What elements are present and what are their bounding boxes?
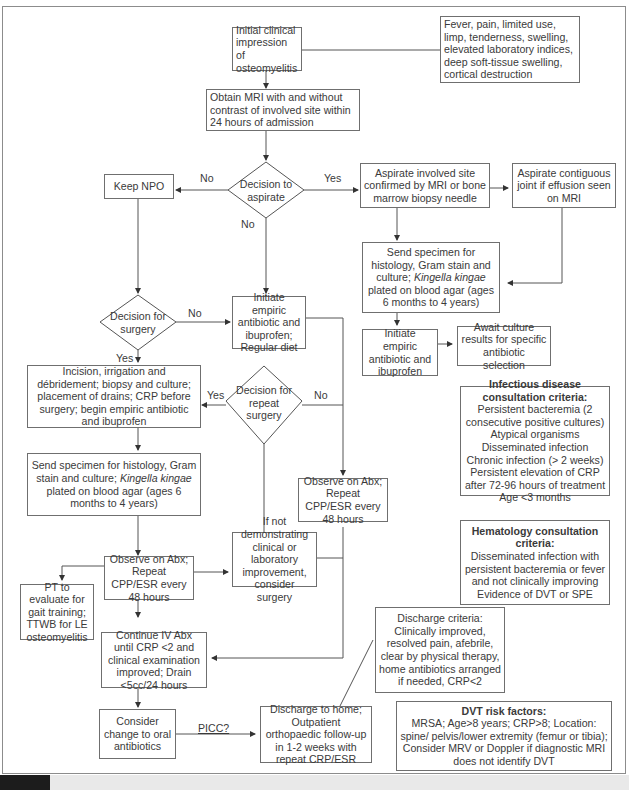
aspirate-site-box: Aspirate involved site confirmed by MRI … — [360, 163, 490, 208]
consider-oral-box: Consider change to oral antibiotics — [99, 709, 176, 759]
bottom-tab — [0, 775, 50, 790]
send-specimen-left-text: Send specimen for histology, Gram stain … — [31, 459, 197, 509]
edge-label-no-surgery: No — [188, 307, 202, 319]
initial-impression-box: Initial clinical impression of osteomyel… — [232, 27, 302, 71]
obtain-mri-text: Obtain MRI with and without contrast of … — [210, 91, 356, 129]
hematology-criteria-box: Hematology consultation criteria: Dissem… — [460, 520, 610, 605]
discharge-home-box: Discharge to home; Outpatient orthopaedi… — [260, 706, 372, 763]
edge-label-yes-aspirate: Yes — [324, 172, 341, 184]
edge-label-yes-repeat: Yes — [207, 389, 224, 401]
observe-abx-left-box: Observe on Abx; Repeat CPP/ESR every 48 … — [104, 556, 194, 600]
discharge-criteria-box: Discharge criteria: Clinically improved,… — [375, 607, 505, 693]
incision-box: Incision, irrigation and débridement; bi… — [27, 365, 201, 428]
aspirate-joint-box: Aspirate contiguous joint if effusion se… — [512, 163, 616, 208]
not-demonstrating-box: If not demonstrating clinical or laborat… — [232, 532, 317, 587]
symptoms-box: Fever, pain, limited use, limp, tenderne… — [440, 16, 580, 83]
edge-label-no-aspirate-down: No — [241, 218, 255, 230]
edge-label-no-repeat: No — [314, 389, 328, 401]
await-culture-box: Await culture results for specific antib… — [457, 326, 551, 366]
decision-for-repeat-surgery: Decision for repeat surgery — [234, 384, 294, 422]
send-specimen-right-box: Send specimen for histology, Gram stain … — [362, 242, 500, 313]
edge-label-yes-surgery: Yes — [116, 352, 133, 364]
edge-label-picc: PICC? — [198, 722, 229, 734]
initiate-empiric-right-box: Initiate empiric antibiotic and ibuprofe… — [362, 329, 438, 376]
symptoms-text: Fever, pain, limited use, limp, tenderne… — [444, 18, 576, 81]
decision-to-aspirate: Decision to aspirate — [236, 178, 296, 203]
send-specimen-right-text: Send specimen for histology, Gram stain … — [366, 246, 496, 309]
keep-npo-box: Keep NPO — [104, 174, 174, 199]
infectious-disease-criteria-box: Infectious disease consultation criteria… — [460, 386, 610, 496]
obtain-mri-box: Obtain MRI with and without contrast of … — [206, 89, 360, 131]
decision-for-surgery: Decision for surgery — [108, 310, 168, 335]
initiate-empiric-center-box: Initiate empiric antibiotic and ibuprofe… — [232, 296, 306, 349]
pt-evaluate-box: PT to evaluate for gait training; TTWB f… — [20, 584, 94, 640]
bottom-bar — [0, 775, 629, 790]
initial-impression-text: Initial clinical impression of osteomyel… — [236, 24, 298, 74]
send-specimen-left-box: Send specimen for histology, Gram stain … — [27, 453, 201, 516]
edge-label-no-npo: No — [200, 172, 214, 184]
continue-iv-box: Continue IV Abx until CRP <2 and clinica… — [101, 632, 207, 688]
dvt-risk-factors-box: DVT risk factors: MRSA; Age>8 years; CRP… — [396, 701, 612, 771]
